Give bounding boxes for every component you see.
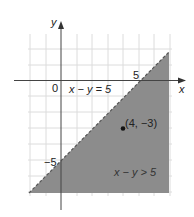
y-tick-label: −5: [44, 157, 57, 168]
point-label: (4, −3): [125, 118, 157, 129]
origin-label: 0: [52, 83, 58, 94]
y-axis-label: y: [51, 17, 57, 28]
y-axis-arrow-icon: [58, 21, 64, 29]
x-axis-label: x: [179, 84, 185, 95]
x-tick-label: 5: [133, 70, 139, 81]
coordinate-plane: [0, 0, 194, 217]
region-label: x − y > 5: [114, 167, 156, 178]
boundary-equation-label: x − y = 5: [69, 84, 111, 95]
